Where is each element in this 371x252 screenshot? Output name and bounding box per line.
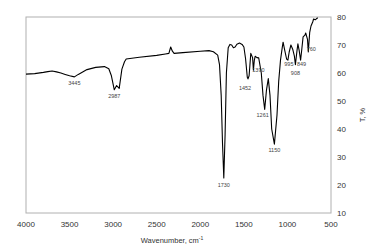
peak-label: 908: [291, 70, 300, 76]
y-tick-label: 20: [337, 181, 346, 190]
y-tick-label: 10: [337, 209, 346, 218]
peak-label: 1730: [218, 182, 230, 188]
y-axis-ticks: 1020304050607080: [337, 13, 346, 218]
spectrum-line: [26, 18, 318, 178]
peak-label: 760: [307, 46, 316, 52]
x-tick-label: 1000: [279, 220, 297, 229]
y-tick-label: 70: [337, 41, 346, 50]
x-tick-label: 1500: [235, 220, 253, 229]
y-tick-label: 40: [337, 125, 346, 134]
x-axis-ticks: 4000350030002500200015001000500: [17, 220, 338, 229]
x-tick-label: 4000: [17, 220, 35, 229]
x-tick-label: 3500: [61, 220, 79, 229]
y-tick-label: 80: [337, 13, 346, 22]
plot-frame: [26, 17, 331, 213]
peak-label: 995: [284, 61, 293, 67]
x-tick-label: 2000: [191, 220, 209, 229]
peak-label: 1452: [239, 85, 251, 91]
x-tick-label: 2500: [148, 220, 166, 229]
y-tick-label: 50: [337, 97, 346, 106]
y-tick-label: 30: [337, 153, 346, 162]
peak-label: 849: [297, 61, 306, 67]
y-tick-label: 60: [337, 69, 346, 78]
peak-label: 3445: [68, 80, 80, 86]
peak-label: 1150: [268, 147, 280, 153]
peak-label: 1390: [252, 67, 264, 73]
peak-label: 2987: [108, 93, 120, 99]
x-tick-label: 3000: [104, 220, 122, 229]
x-tick-label: 500: [324, 220, 338, 229]
y-axis-title: T, %: [358, 107, 367, 122]
ftir-chart: 4000350030002500200015001000500 10203040…: [0, 0, 371, 252]
peak-label: 1261: [257, 112, 269, 118]
x-axis-title: Wavenumber, cm-1: [141, 235, 204, 245]
